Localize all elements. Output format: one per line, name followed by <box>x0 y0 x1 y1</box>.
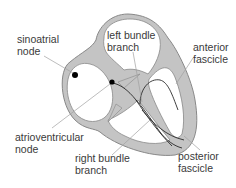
label-line: left bundle <box>107 29 155 41</box>
label-line: branch <box>107 41 155 53</box>
atrioventricular-node-dot <box>109 79 114 84</box>
label-line: sinoatrial <box>17 33 59 45</box>
label-line: branch <box>75 164 130 176</box>
label-posterior-fascicle: posterior fascicle <box>178 150 219 174</box>
label-line: right bundle <box>75 152 130 164</box>
label-right-bundle-branch: right bundle branch <box>75 152 130 176</box>
label-anterior-fascicle: anterior fascicle <box>193 41 229 65</box>
heart-conduction-diagram: sinoatrial node left bundle branch anter… <box>0 0 236 188</box>
label-line: fascicle <box>178 162 219 174</box>
label-atrioventricular-node: atrioventricular node <box>15 131 84 155</box>
label-line: posterior <box>178 150 219 162</box>
label-line: fascicle <box>193 53 229 65</box>
label-line: node <box>17 45 59 57</box>
label-sinoatrial-node: sinoatrial node <box>17 33 59 57</box>
label-line: node <box>15 143 84 155</box>
label-line: atrioventricular <box>15 131 84 143</box>
label-left-bundle-branch: left bundle branch <box>107 29 155 53</box>
label-line: anterior <box>193 41 229 53</box>
